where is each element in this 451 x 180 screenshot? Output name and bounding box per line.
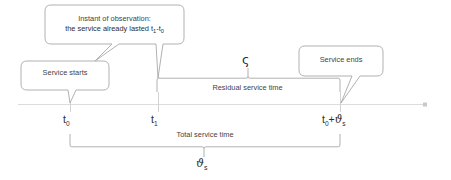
bracket-label-total-service-time: Total service time	[70, 131, 340, 140]
theta-subscript: s	[204, 164, 208, 171]
axis-right-arrow-icon	[423, 103, 427, 107]
tick-markers	[71, 92, 341, 112]
theta-glyph: ϑ	[196, 157, 204, 170]
t0-subscript: 0	[66, 120, 70, 127]
observation-sub-1: 1	[153, 28, 156, 34]
bracket-label-residual-service-time: Residual service time	[155, 84, 340, 93]
symbol-theta-sub-s: ϑs	[196, 157, 207, 171]
callout-instant-of-observation-label: Instant of observation: the service alre…	[45, 15, 184, 33]
t0theta-subscript: 0	[325, 120, 329, 127]
callout-observation-line2: the service already lasted t1-t0	[45, 25, 184, 34]
tick-label-t0-plus-theta-s: t0+ϑs	[322, 113, 346, 125]
callout-service-ends-label: Service ends	[299, 56, 383, 65]
t1-subscript: 1	[154, 120, 158, 127]
callout-observation-line1: Instant of observation:	[78, 14, 151, 23]
tick-label-t0: t0	[63, 113, 70, 125]
diagram-canvas: Service starts Instant of observation: t…	[0, 0, 451, 180]
tick-label-t1: t1	[151, 113, 158, 125]
t0theta-theta-subscript: s	[342, 120, 345, 127]
observation-text-prefix: the service already lasted t	[65, 24, 153, 33]
time-axis	[18, 103, 427, 107]
symbol-final-sigma: ς	[242, 53, 249, 68]
callout-service-starts-label: Service starts	[21, 69, 109, 78]
observation-sub-2: 0	[161, 28, 164, 34]
